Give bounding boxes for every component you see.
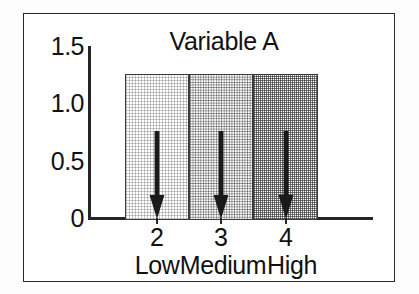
y-tick-label-0-5: 0.5 [26,149,84,174]
y-axis-line [88,46,91,219]
y-tick-label-1-0: 1.0 [26,91,84,116]
y-tick-label-1-5: 1.5 [26,34,84,59]
down-arrow-icon-medium [212,131,230,221]
down-arrow-icon-high [277,131,295,221]
chart-figure: Variable A 1.5 1.0 0.5 0 [0,0,419,294]
x-tick-label-3: 3 [191,224,251,251]
x-tick-label-4: 4 [256,224,316,251]
x-tick-label-2: 2 [127,224,187,251]
figure-frame-border: Variable A 1.5 1.0 0.5 0 [23,13,395,282]
x-category-label-high: High [237,252,347,279]
y-tick-label-0: 0 [26,206,84,231]
y-axis-tick-labels: 1.5 1.0 0.5 0 [24,14,84,283]
down-arrow-icon-low [148,131,166,221]
plot-area: Variable A 1.5 1.0 0.5 0 [24,14,396,283]
chart-title: Variable A [124,28,324,55]
